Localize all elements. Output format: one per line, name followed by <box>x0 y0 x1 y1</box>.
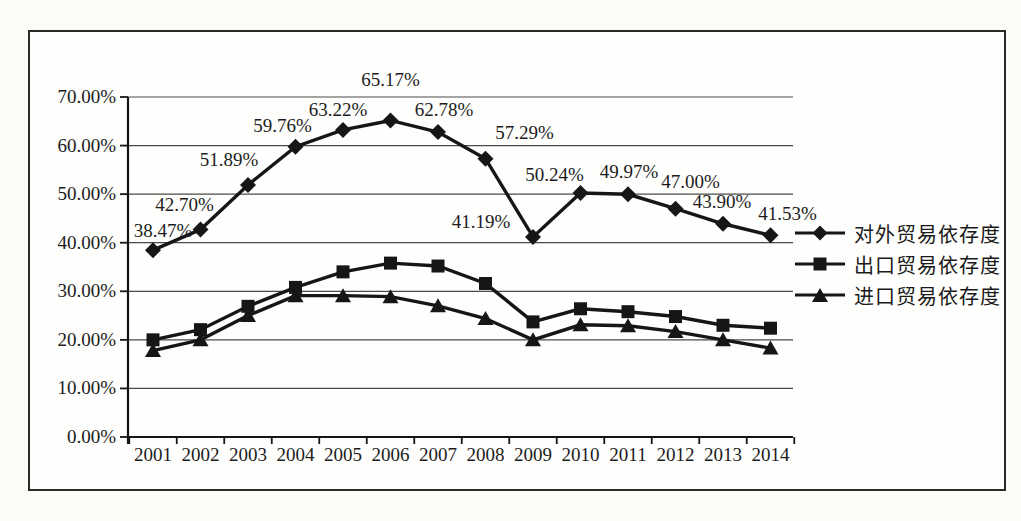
data-point-label: 62.78% <box>415 99 474 120</box>
x-tick-label: 2010 <box>562 444 600 465</box>
square-marker <box>194 323 207 336</box>
legend-item-foreign-trade: 对外贸易依存度 <box>794 221 1001 245</box>
legend-label-export-trade: 出口贸易依存度 <box>854 250 1001 279</box>
diamond-marker <box>335 122 351 138</box>
legend-label-import-trade: 进口贸易依存度 <box>854 281 1001 310</box>
x-tick-label: 2006 <box>372 444 410 465</box>
data-point-label: 63.22% <box>309 99 368 120</box>
y-tick-label: 70.00% <box>57 86 116 107</box>
x-tick-label: 2013 <box>704 444 742 465</box>
y-tick-label: 10.00% <box>57 377 116 398</box>
legend-item-import-trade: 进口贸易依存度 <box>794 283 1001 307</box>
data-point-label: 59.76% <box>253 115 312 136</box>
triangle-series-icon <box>794 286 846 304</box>
x-tick-label: 2001 <box>134 444 172 465</box>
diamond-series-icon <box>794 224 846 242</box>
y-tick-label: 50.00% <box>57 183 116 204</box>
chart-frame: 0.00%10.00%20.00%30.00%40.00%50.00%60.00… <box>28 30 1006 491</box>
series-triangle <box>145 288 779 357</box>
data-point-label: 65.17% <box>361 69 420 90</box>
square-marker <box>147 333 160 346</box>
y-tick-label: 30.00% <box>57 280 116 301</box>
data-point-label: 49.97% <box>600 161 659 182</box>
x-tick-label: 2004 <box>277 444 316 465</box>
square-marker <box>384 257 397 270</box>
x-axis-tick-labels: 2001200220032004200520062007200820092010… <box>134 444 790 465</box>
gridlines <box>128 97 793 388</box>
diamond-marker <box>145 242 161 258</box>
x-tick-label: 2002 <box>182 444 220 465</box>
square-marker <box>764 322 777 335</box>
square-marker <box>432 260 445 273</box>
x-tick-label: 2014 <box>752 444 791 465</box>
square-marker <box>622 305 635 318</box>
y-tick-label: 0.00% <box>67 426 116 447</box>
data-point-label: 43.90% <box>693 191 752 212</box>
data-point-label: 38.47% <box>134 220 193 241</box>
data-point-label: 50.24% <box>525 164 584 185</box>
data-point-label: 57.29% <box>495 122 554 143</box>
x-tick-label: 2007 <box>419 444 457 465</box>
diamond-marker <box>478 151 494 167</box>
legend-label-foreign-trade: 对外贸易依存度 <box>854 219 1001 248</box>
data-point-label: 51.89% <box>200 149 259 170</box>
x-tick-label: 2005 <box>324 444 362 465</box>
y-tick-label: 60.00% <box>57 135 116 156</box>
y-axis-tick-labels: 0.00%10.00%20.00%30.00%40.00%50.00%60.00… <box>57 86 116 447</box>
data-point-label: 47.00% <box>661 171 720 192</box>
diamond-marker <box>763 227 779 243</box>
data-point-label: 42.70% <box>155 194 214 215</box>
x-tick-label: 2003 <box>229 444 267 465</box>
square-marker <box>527 315 540 328</box>
square-marker <box>479 277 492 290</box>
y-tick-label: 40.00% <box>57 232 116 253</box>
square-marker <box>574 302 587 315</box>
data-labels: 38.47%42.70%51.89%59.76%63.22%65.17%62.7… <box>134 69 817 241</box>
diamond-marker <box>383 112 399 128</box>
square-series-icon <box>794 255 846 273</box>
diamond-marker <box>668 201 684 217</box>
square-marker <box>242 300 255 313</box>
diamond-marker <box>620 186 636 202</box>
x-tick-label: 2012 <box>657 444 695 465</box>
x-tick-label: 2008 <box>467 444 505 465</box>
x-tick-label: 2011 <box>609 444 646 465</box>
data-point-label: 41.19% <box>452 211 511 232</box>
square-marker <box>289 281 302 294</box>
y-tick-label: 20.00% <box>57 329 116 350</box>
scanned-chart-page: { "figure": { "background_color": "#fefe… <box>0 0 1021 521</box>
chart-legend: 对外贸易依存度 出口贸易依存度 进口贸易依存度 <box>794 221 1001 307</box>
diamond-marker <box>715 216 731 232</box>
square-marker <box>337 265 350 278</box>
legend-item-export-trade: 出口贸易依存度 <box>794 252 1001 276</box>
square-marker <box>717 319 730 332</box>
diamond-marker <box>430 124 446 140</box>
x-tick-label: 2009 <box>514 444 552 465</box>
square-marker <box>669 310 682 323</box>
